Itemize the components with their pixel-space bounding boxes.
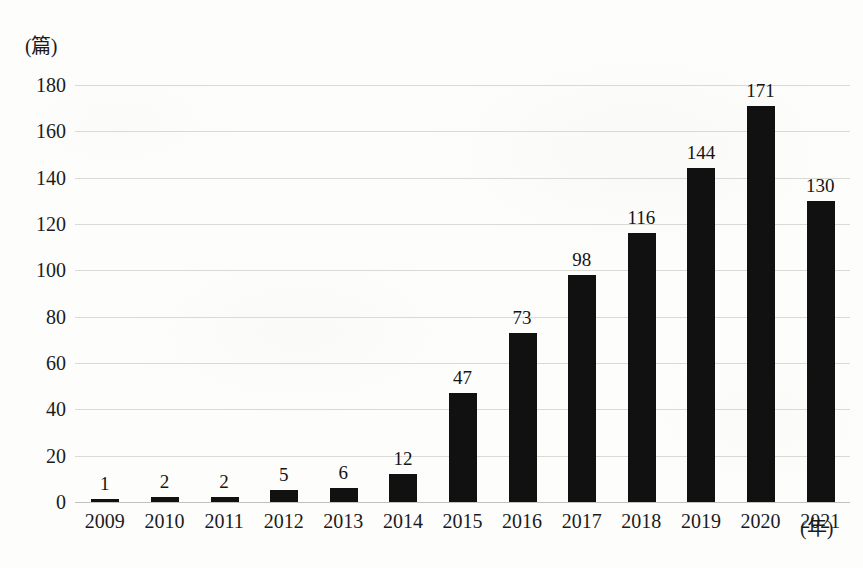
y-tick-label: 60: [20, 353, 66, 373]
plot-area: 1225612477398116144171130: [75, 85, 850, 502]
bar-value-label: 1: [76, 474, 133, 493]
gridline: [75, 178, 850, 179]
y-tick-label: 120: [20, 214, 66, 234]
y-axis-unit-label: (篇): [25, 30, 57, 59]
bar-value-label: 171: [732, 81, 789, 100]
x-tick-label: 2017: [553, 509, 610, 533]
y-tick-label: 40: [20, 399, 66, 419]
bar[interactable]: [807, 201, 835, 502]
bar[interactable]: [568, 275, 596, 502]
y-axis-tick-labels: 180160140120100806040200: [10, 85, 66, 502]
y-tick-label: 0: [20, 492, 66, 512]
bar-value-label: 98: [553, 250, 610, 269]
bar-value-label: 73: [494, 308, 551, 327]
x-tick-label: 2009: [76, 509, 133, 533]
x-tick-label: 2013: [315, 509, 372, 533]
bar[interactable]: [330, 488, 358, 502]
axis-baseline: [75, 502, 850, 503]
bar[interactable]: [509, 333, 537, 502]
bar[interactable]: [687, 168, 715, 502]
x-tick-label: 2015: [434, 509, 491, 533]
bar[interactable]: [151, 497, 179, 502]
bar-value-label: 2: [136, 472, 193, 491]
y-tick-label: 160: [20, 121, 66, 141]
bar[interactable]: [91, 499, 119, 502]
bar-value-label: 144: [672, 143, 729, 162]
y-tick-label: 80: [20, 307, 66, 327]
x-tick-label: 2016: [494, 509, 551, 533]
gridline: [75, 224, 850, 225]
gridline: [75, 363, 850, 364]
gridline: [75, 317, 850, 318]
x-tick-label: 2019: [672, 509, 729, 533]
bar-value-label: 116: [613, 208, 670, 227]
bar[interactable]: [747, 106, 775, 502]
x-axis-tick-labels: 2009201020112012201320142015201620172018…: [75, 509, 850, 539]
y-tick-label: 100: [20, 260, 66, 280]
bar-value-label: 130: [792, 176, 849, 195]
x-tick-label: 2014: [374, 509, 431, 533]
x-tick-label: 2021: [792, 509, 849, 533]
bar-value-label: 12: [374, 449, 431, 468]
bar-value-label: 6: [315, 463, 372, 482]
bar[interactable]: [211, 497, 239, 502]
bar-value-label: 47: [434, 368, 491, 387]
bar[interactable]: [389, 474, 417, 502]
x-tick-label: 2020: [732, 509, 789, 533]
gridline: [75, 131, 850, 132]
x-tick-label: 2011: [196, 509, 253, 533]
bar[interactable]: [628, 233, 656, 502]
x-tick-label: 2010: [136, 509, 193, 533]
bar[interactable]: [270, 490, 298, 502]
x-tick-label: 2018: [613, 509, 670, 533]
x-tick-label: 2012: [255, 509, 312, 533]
y-tick-label: 140: [20, 168, 66, 188]
chart-page: (篇) (年) 180160140120100806040200 1225612…: [0, 0, 863, 568]
gridline: [75, 270, 850, 271]
bar-value-label: 2: [196, 472, 253, 491]
y-tick-label: 20: [20, 446, 66, 466]
bar-value-label: 5: [255, 465, 312, 484]
y-tick-label: 180: [20, 75, 66, 95]
bar[interactable]: [449, 393, 477, 502]
